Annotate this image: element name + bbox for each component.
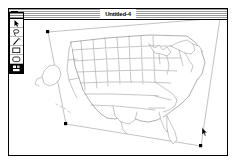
handle-bottom-right	[199, 144, 202, 147]
pointer-arrow-icon	[11, 19, 22, 28]
drawing-canvas[interactable]	[9, 20, 227, 155]
alaska-inset	[35, 65, 61, 86]
pointer-tool[interactable]	[10, 19, 23, 28]
screen: Untitled-4	[0, 0, 236, 164]
handle-bottom-left	[64, 122, 67, 125]
us-map-outlines[interactable]	[35, 35, 205, 144]
canvas-artwork	[9, 20, 227, 155]
window-title: Untitled-4	[100, 9, 136, 20]
fill-pattern-icon	[11, 64, 22, 73]
magic-wand-tool[interactable]	[10, 37, 23, 46]
tool-palette[interactable]	[9, 12, 24, 74]
window-titlebar[interactable]: Untitled-4	[9, 9, 227, 20]
lasso-tool[interactable]	[10, 28, 23, 37]
document-window[interactable]: Untitled-4	[8, 8, 228, 156]
handle-top-left	[46, 30, 49, 33]
pattern-swatch[interactable]	[10, 64, 23, 73]
lasso-icon	[11, 28, 22, 37]
rounded-rect-icon	[11, 55, 22, 64]
magic-wand-icon	[11, 37, 22, 46]
rectangle-tool[interactable]	[10, 46, 23, 55]
rectangle-icon	[11, 46, 22, 55]
rounded-rect-tool[interactable]	[10, 55, 23, 64]
